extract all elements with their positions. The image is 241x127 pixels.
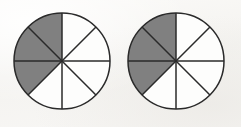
fraction-circles-canvas: [0, 0, 241, 127]
fraction-circles-figure: [0, 0, 241, 127]
right-circle-group: [128, 13, 224, 109]
left-circle-group: [14, 13, 110, 109]
